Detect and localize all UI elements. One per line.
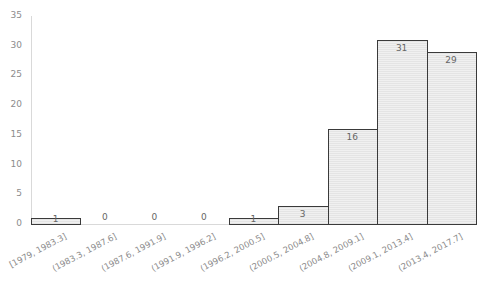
histogram-bar xyxy=(377,40,427,225)
histogram-bar xyxy=(427,52,477,225)
y-tick-label: 25 xyxy=(0,69,22,79)
y-tick-label: 15 xyxy=(0,129,22,139)
histogram-bar xyxy=(328,129,378,225)
y-tick-label: 10 xyxy=(0,159,22,169)
bar-data-label: 0 xyxy=(179,212,228,222)
bar-data-label: 16 xyxy=(328,132,377,142)
y-tick-label: 20 xyxy=(0,99,22,109)
bar-data-label: 1 xyxy=(229,214,278,224)
y-tick-label: 35 xyxy=(0,10,22,20)
y-axis-line xyxy=(31,16,32,224)
bar-data-label: 1 xyxy=(31,214,80,224)
bar-data-label: 0 xyxy=(130,212,179,222)
y-tick-label: 0 xyxy=(0,218,22,228)
bar-data-label: 29 xyxy=(427,55,476,65)
histogram-chart: 05101520253035 100013163129 [1979, 1983.… xyxy=(0,0,483,282)
y-tick-label: 5 xyxy=(0,188,22,198)
bar-data-label: 0 xyxy=(80,212,129,222)
bar-data-label: 31 xyxy=(377,43,426,53)
bar-data-label: 3 xyxy=(278,209,327,219)
y-tick-label: 30 xyxy=(0,40,22,50)
